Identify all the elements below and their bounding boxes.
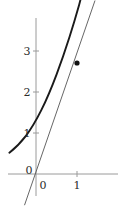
y-tick-label-0: 0 [26, 164, 33, 177]
math-figure: 3 2 1 0 0 1 [0, 0, 120, 215]
y-tick-label-3: 3 [24, 45, 31, 58]
x-tick-label-1: 1 [74, 179, 81, 192]
x-tick-label-0: 0 [40, 179, 47, 192]
y-tick-label-1: 1 [24, 127, 31, 140]
tangency-point [74, 60, 79, 65]
figure-background [0, 0, 120, 215]
y-tick-label-2: 2 [24, 86, 31, 99]
